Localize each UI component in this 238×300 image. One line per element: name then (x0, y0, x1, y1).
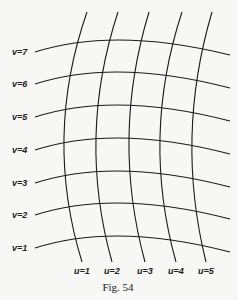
u-label: u=1 (74, 266, 90, 276)
u-label: u=5 (198, 266, 215, 276)
u-curve (160, 12, 182, 262)
u-curve (64, 12, 87, 262)
v-label: v=5 (12, 112, 28, 122)
v-curve (35, 105, 230, 121)
v-curve (35, 171, 230, 187)
u-curve (96, 12, 118, 262)
u-curve (192, 12, 212, 262)
v-label: v=3 (12, 178, 27, 188)
v-label: v=2 (12, 210, 27, 220)
v-label: v=6 (12, 79, 28, 89)
curvilinear-grid-figure: v=7v=6v=5v=4v=3v=2v=1 u=1u=2u=3u=4u=5 Fi… (0, 0, 238, 300)
v-label: v=4 (12, 145, 27, 155)
u-label: u=3 (137, 266, 153, 276)
v-curve (35, 40, 230, 55)
u-labels: u=1u=2u=3u=4u=5 (74, 266, 215, 276)
u-label: u=4 (168, 266, 184, 276)
v-curve (35, 203, 230, 219)
v-label: v=1 (12, 243, 27, 253)
u-label: u=2 (104, 266, 120, 276)
figure-caption: Fig. 54 (102, 281, 134, 293)
v-labels: v=7v=6v=5v=4v=3v=2v=1 (12, 47, 28, 253)
u-curve (129, 12, 149, 262)
u-curves (64, 12, 212, 262)
v-label: v=7 (12, 47, 28, 57)
